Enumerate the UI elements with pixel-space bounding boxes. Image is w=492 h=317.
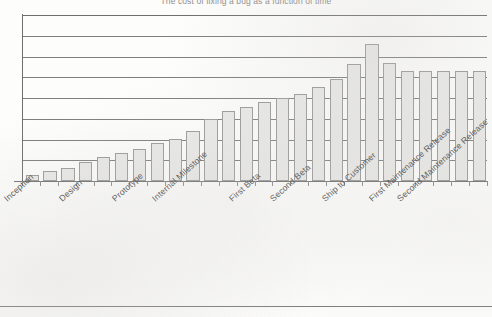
x-axis-tick [362,181,363,186]
bar [240,107,253,181]
x-axis-tick [40,181,41,186]
x-axis-tick [58,181,59,186]
bar [258,102,271,181]
x-axis-tick [487,181,488,186]
bar [383,63,396,181]
x-axis-tick [111,181,112,186]
x-axis-tick [219,181,220,186]
x-axis-tick [183,181,184,186]
x-axis-tick [469,181,470,186]
x-axis-tick [94,181,95,186]
figure-page: The cost of fixing a bug as a function o… [0,0,492,317]
bar [455,71,468,181]
chart-title: The cost of fixing a bug as a function o… [0,0,492,6]
x-axis-tick [147,181,148,186]
bar [204,119,217,181]
bar [312,87,325,181]
x-axis-tick [308,181,309,186]
x-axis-tick [451,181,452,186]
bar [151,143,164,181]
bar [97,157,110,181]
bar [61,168,74,181]
bar [222,111,235,181]
x-axis-tick [201,181,202,186]
bar [43,171,56,181]
bar [79,162,92,181]
category-label: Inception [2,172,36,204]
bar [330,79,343,181]
bar [276,98,289,181]
bar [115,153,128,181]
x-axis-tick [433,181,434,186]
page-bottom-rule [0,306,492,307]
x-axis-tick [272,181,273,186]
x-axis-tick [326,181,327,186]
